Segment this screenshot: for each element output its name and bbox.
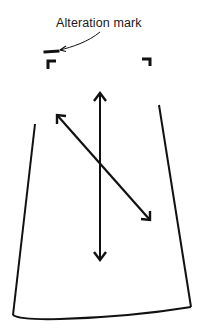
leader-arrow-icon [60, 32, 100, 52]
bias-double-arrow-icon [57, 115, 150, 220]
skirt-panel-outline [13, 105, 191, 319]
diagram-canvas [0, 0, 205, 335]
grainline-double-arrow-icon [94, 93, 106, 260]
alteration-dash-mark [45, 51, 58, 52]
left-corner-mark [48, 61, 56, 69]
right-corner-mark [142, 59, 150, 66]
